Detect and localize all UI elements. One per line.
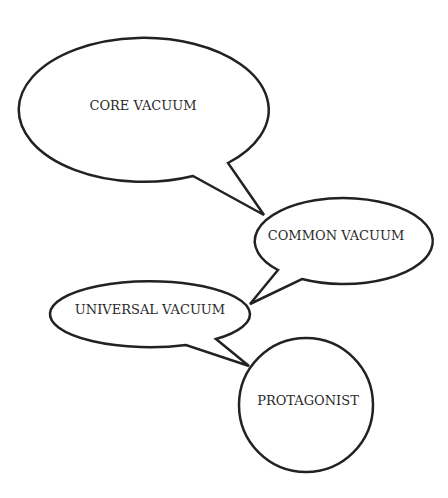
node-protagonist: PROTAGONIST	[239, 338, 373, 472]
core-vacuum-label: CORE VACUUM	[89, 98, 196, 113]
node-core-vacuum: CORE VACUUM	[19, 38, 269, 215]
diagram-canvas: CORE VACUUM COMMON VACUUM UNIVERSAL VACU…	[0, 0, 448, 498]
universal-vacuum-bubble	[50, 281, 250, 366]
node-universal-vacuum: UNIVERSAL VACUUM	[50, 281, 250, 366]
node-common-vacuum: COMMON VACUUM	[250, 198, 433, 304]
common-vacuum-label: COMMON VACUUM	[268, 228, 404, 243]
common-vacuum-bubble	[250, 198, 433, 304]
protagonist-label: PROTAGONIST	[257, 393, 359, 408]
universal-vacuum-label: UNIVERSAL VACUUM	[75, 302, 225, 317]
core-vacuum-bubble	[19, 38, 269, 215]
